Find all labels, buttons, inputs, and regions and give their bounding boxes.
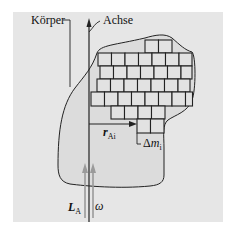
rigid-body-diagram (0, 0, 235, 230)
body-label: Körper (31, 14, 65, 26)
axis-arrowhead-icon (87, 18, 92, 27)
position-vector-label: rAi (103, 126, 116, 141)
angular-momentum-label: LA (68, 201, 81, 216)
mass-subscript: i (159, 143, 161, 152)
mass-element-label: Δmi (143, 137, 162, 152)
position-vector-subscript: Ai (108, 132, 116, 141)
axis-label: Achse (103, 14, 133, 26)
body-leader-line (63, 20, 70, 87)
angular-velocity-label: ω (95, 200, 103, 212)
angular-momentum-subscript: A (75, 207, 81, 216)
delta-symbol: Δ (143, 136, 151, 150)
